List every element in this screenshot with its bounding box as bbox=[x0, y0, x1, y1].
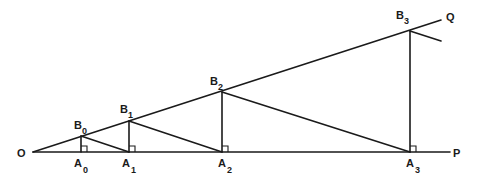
svg-text:1: 1 bbox=[128, 110, 133, 120]
segment-b2-a3 bbox=[222, 92, 410, 152]
svg-text:B: B bbox=[210, 75, 218, 87]
svg-text:0: 0 bbox=[82, 126, 87, 136]
svg-text:A: A bbox=[74, 157, 82, 169]
label-a0: A 0 bbox=[74, 157, 88, 175]
svg-text:A: A bbox=[122, 157, 130, 169]
right-angle-a0-icon bbox=[81, 146, 87, 152]
label-p: P bbox=[453, 147, 460, 159]
segment-b3-continuation bbox=[410, 31, 441, 41]
label-a1: A 1 bbox=[122, 157, 136, 175]
label-q: Q bbox=[446, 11, 455, 23]
right-angle-a2-icon bbox=[222, 146, 228, 152]
label-b1: B 1 bbox=[120, 103, 133, 120]
label-o: O bbox=[17, 147, 26, 159]
svg-text:1: 1 bbox=[131, 165, 136, 175]
geometry-diagram: O P Q A 0 A 1 A 2 A 3 B 0 B 1 B 2 B 3 bbox=[0, 0, 478, 183]
label-a2: A 2 bbox=[218, 157, 232, 175]
svg-text:B: B bbox=[396, 9, 404, 21]
svg-text:A: A bbox=[406, 157, 414, 169]
svg-text:0: 0 bbox=[83, 165, 88, 175]
svg-text:2: 2 bbox=[218, 82, 223, 92]
svg-text:A: A bbox=[218, 157, 226, 169]
segment-b0-a1 bbox=[81, 136, 129, 152]
label-b2: B 2 bbox=[210, 75, 223, 92]
label-b3: B 3 bbox=[396, 9, 409, 26]
label-a3: A 3 bbox=[406, 157, 420, 175]
svg-text:B: B bbox=[74, 119, 82, 131]
svg-text:3: 3 bbox=[404, 16, 409, 26]
ray-oq bbox=[33, 20, 441, 152]
svg-text:B: B bbox=[120, 103, 128, 115]
right-angle-a1-icon bbox=[129, 146, 135, 152]
label-b0: B 0 bbox=[74, 119, 87, 136]
svg-text:2: 2 bbox=[227, 165, 232, 175]
right-angle-a3-icon bbox=[410, 146, 416, 152]
svg-text:3: 3 bbox=[415, 165, 420, 175]
segment-b1-a2 bbox=[129, 121, 222, 152]
